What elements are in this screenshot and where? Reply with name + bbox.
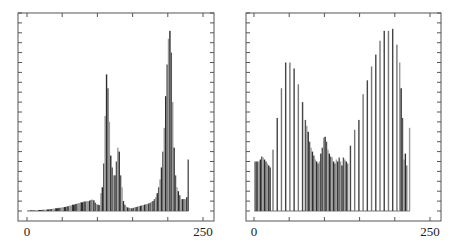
histogram-bar — [367, 80, 368, 211]
histogram-bar — [120, 175, 121, 211]
histogram-bar — [50, 209, 53, 211]
histogram-bar — [111, 167, 112, 211]
histogram-bar — [96, 204, 97, 211]
histogram-bar — [306, 126, 307, 211]
histogram-bar — [92, 200, 93, 211]
histogram-bar — [338, 158, 339, 211]
histogram-bar — [267, 163, 268, 211]
histogram-bar — [141, 205, 142, 211]
histogram-bar — [75, 204, 78, 211]
histogram-bar — [38, 210, 41, 211]
histogram-bar — [308, 132, 309, 211]
histogram-bar — [289, 63, 290, 212]
histogram-bar — [188, 160, 189, 211]
x-tick-label: 250 — [420, 224, 440, 239]
histogram-bar — [333, 162, 334, 212]
histogram-bar — [175, 175, 176, 211]
histogram-bar — [379, 41, 380, 211]
histogram-bar — [119, 152, 120, 211]
histogram-bar — [171, 53, 172, 211]
histogram-bar — [78, 203, 81, 211]
histogram-bar — [341, 165, 342, 211]
histogram-bar — [327, 150, 328, 211]
histogram-bar — [293, 68, 294, 211]
histogram-bar — [97, 205, 98, 211]
histogram-bar — [69, 205, 72, 211]
histogram-bar — [113, 175, 114, 211]
histogram-bar — [185, 199, 186, 211]
histogram-bar — [159, 179, 160, 211]
histogram-bar — [260, 160, 261, 211]
histogram-bar — [172, 102, 173, 211]
histogram-bar — [102, 187, 103, 211]
histogram-bar — [384, 31, 385, 211]
histogram-bar — [272, 150, 273, 211]
histogram-bar — [135, 207, 136, 211]
histogram-bar — [269, 167, 270, 211]
x-tick-label: 0 — [251, 224, 258, 239]
histogram-bar — [104, 116, 105, 211]
histogram-bar — [173, 148, 174, 211]
histogram-bar — [148, 203, 149, 211]
histogram-bar — [137, 207, 138, 211]
histogram-bar — [182, 199, 183, 211]
histogram-bar — [310, 148, 311, 211]
histogram-bar — [30, 210, 33, 211]
histogram-bar — [362, 94, 363, 211]
histogram-bar — [336, 160, 337, 211]
histogram-bar — [83, 201, 86, 211]
histogram-bar — [262, 158, 263, 211]
histogram-bar — [144, 205, 145, 211]
x-tick-label: 250 — [193, 224, 213, 239]
histogram-bar — [109, 122, 110, 211]
histogram-bar — [147, 204, 148, 211]
histogram-bar — [126, 207, 127, 211]
histogram-bar — [124, 205, 125, 211]
histogram-bar — [261, 157, 262, 211]
histogram-bar — [277, 118, 278, 211]
histogram-bar — [392, 29, 393, 211]
histogram-bar — [165, 96, 166, 211]
histogram-bar — [402, 118, 403, 211]
histogram-bar — [142, 205, 143, 211]
histogram-bar — [265, 162, 266, 212]
histogram-bar — [130, 208, 131, 211]
histogram-bar — [44, 210, 47, 211]
x-tick-label: 0 — [24, 224, 31, 239]
histogram-bar — [140, 206, 141, 211]
histogram-bar — [326, 142, 327, 211]
histogram-bar — [162, 152, 163, 211]
histogram-bar — [47, 209, 50, 211]
histogram-bar — [58, 208, 61, 211]
histogram-bar — [93, 200, 94, 211]
histogram-bar — [145, 204, 146, 211]
histogram-bar — [331, 158, 332, 211]
histogram-bar — [334, 163, 335, 211]
histogram-bar — [117, 148, 118, 211]
histogram-bar — [52, 209, 55, 211]
histogram-bar — [138, 206, 139, 211]
histogram-bar — [106, 74, 107, 211]
histogram-bar — [161, 167, 162, 211]
histogram-bar — [313, 156, 314, 211]
histogram-bar — [114, 175, 115, 211]
histogram-bar — [95, 203, 96, 211]
histogram-bar — [319, 162, 320, 212]
histogram-bar — [400, 88, 401, 211]
histogram-bar — [41, 210, 44, 211]
histogram-bar — [116, 162, 117, 212]
histogram-bar — [103, 163, 104, 211]
histogram-bar — [320, 154, 321, 211]
histogram-bar — [346, 162, 347, 212]
histogram-bar — [72, 205, 75, 211]
histogram-bar — [329, 154, 330, 211]
histogram-figure: 0250 0250 — [0, 0, 454, 244]
histogram-bar — [99, 205, 100, 211]
histogram-bar — [123, 201, 124, 211]
histogram-bar — [340, 162, 341, 212]
histogram-bar — [312, 152, 313, 211]
histogram-bar — [176, 187, 177, 211]
histogram-bar — [316, 162, 317, 212]
histogram-bar — [131, 208, 132, 211]
histogram-bar — [158, 187, 159, 211]
